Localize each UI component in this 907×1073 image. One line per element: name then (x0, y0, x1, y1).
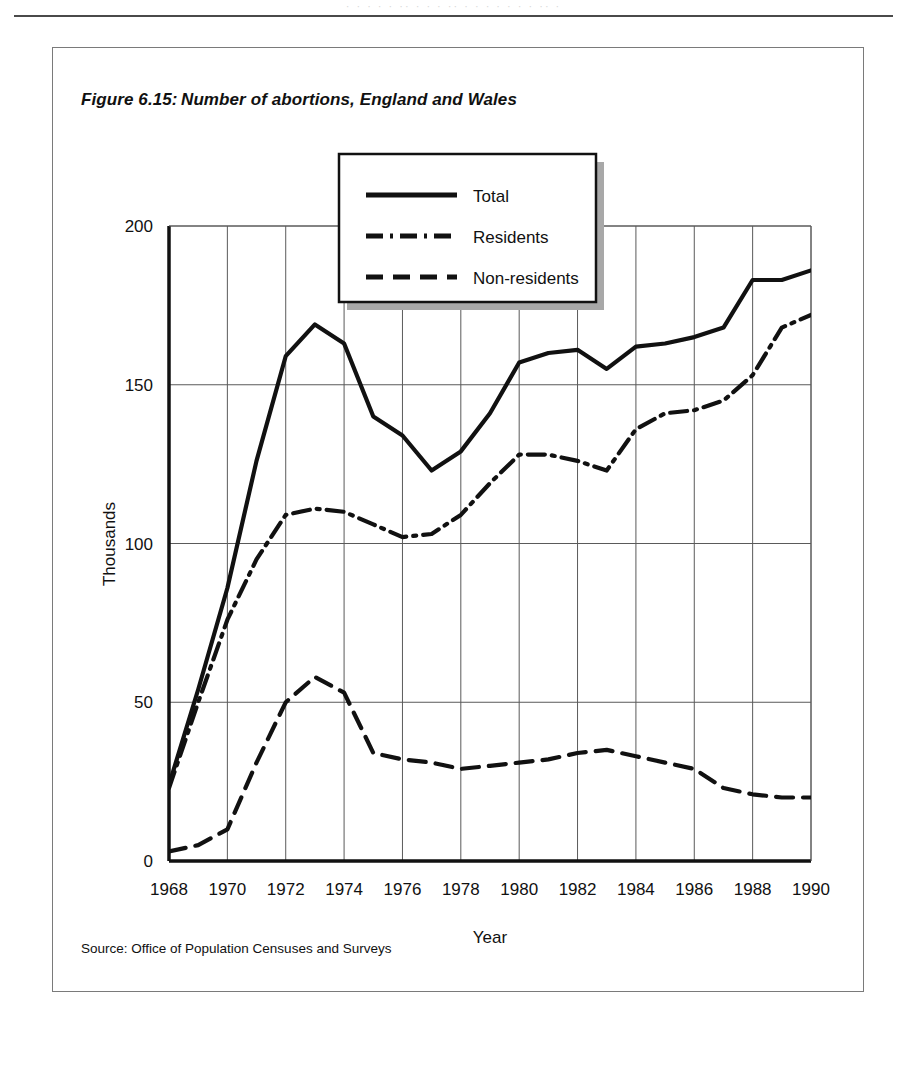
y-tick-label: 150 (125, 376, 153, 395)
x-axis-title: Year (473, 928, 508, 947)
figure-source-note: Source: Office of Population Censuses an… (81, 941, 391, 956)
y-axis-tick-labels: 050100150200 (125, 217, 153, 871)
page-bleed-text: · · · · · ·· · · · ·· · · · · · · · ·· · (0, 0, 907, 14)
chart-plot: 050100150200 196819701972197419761978198… (53, 48, 863, 991)
series-line-residents (169, 315, 811, 788)
y-axis-title: Thousands (100, 502, 119, 586)
legend-label: Residents (473, 228, 549, 247)
x-tick-label: 1978 (442, 880, 480, 899)
legend-label: Total (473, 187, 509, 206)
series-line-total (169, 270, 811, 784)
y-tick-label: 50 (134, 693, 153, 712)
y-tick-label: 100 (125, 535, 153, 554)
x-tick-label: 1986 (675, 880, 713, 899)
x-tick-label: 1976 (384, 880, 422, 899)
x-tick-label: 1980 (500, 880, 538, 899)
x-tick-label: 1974 (325, 880, 363, 899)
figure-frame: Figure 6.15:Number of abortions, England… (52, 47, 864, 992)
y-tick-label: 0 (144, 852, 153, 871)
series-line-non-residents (169, 677, 811, 852)
x-axis-tick-labels: 1968197019721974197619781980198219841986… (150, 880, 830, 899)
page-horizontal-rule (14, 15, 893, 17)
abortions-line-chart: 050100150200 196819701972197419761978198… (53, 48, 863, 991)
x-tick-label: 1990 (792, 880, 830, 899)
x-tick-label: 1984 (617, 880, 655, 899)
legend-label: Non-residents (473, 269, 579, 288)
x-tick-label: 1988 (734, 880, 772, 899)
x-tick-label: 1972 (267, 880, 305, 899)
y-tick-label: 200 (125, 217, 153, 236)
x-tick-label: 1970 (208, 880, 246, 899)
x-tick-label: 1968 (150, 880, 188, 899)
x-tick-label: 1982 (559, 880, 597, 899)
